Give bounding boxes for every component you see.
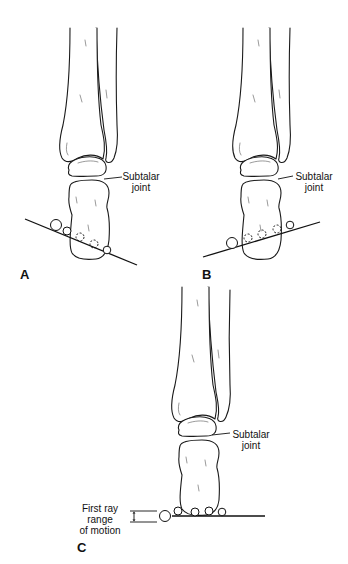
ball-c-4 <box>205 507 213 515</box>
calcaneus-c <box>179 440 220 515</box>
calcaneus-b <box>241 180 282 259</box>
panel-letter-a: A <box>20 267 29 282</box>
ball-b-5 <box>286 221 294 229</box>
ball-b-1 <box>227 238 238 249</box>
first-ray-range-label: First ray range of motion <box>74 503 126 536</box>
ball-a-1 <box>51 220 62 231</box>
ball-c-2 <box>174 507 182 515</box>
range-label-line3: of motion <box>74 525 126 536</box>
panel-letter-b: B <box>202 267 211 282</box>
ball-c-5 <box>218 508 226 516</box>
label-b-line1: Subtalar <box>291 171 337 182</box>
label-a-line2: joint <box>118 182 164 193</box>
talus-b <box>240 157 278 177</box>
panel-letter-c: C <box>77 540 86 555</box>
panel-b-drawing <box>203 28 320 259</box>
talus-a <box>68 157 106 177</box>
calcaneus-a <box>69 180 110 259</box>
label-c-line2: joint <box>228 440 274 451</box>
range-label-line1: First ray <box>74 503 126 514</box>
subtalar-joint-label-a: Subtalar joint <box>118 171 164 193</box>
diagram-canvas <box>0 0 348 564</box>
panel-a-drawing <box>25 28 137 265</box>
range-label-line2: range <box>74 514 126 525</box>
ball-a-2 <box>63 227 71 235</box>
range-of-motion-bracket <box>130 511 157 522</box>
ball-c-1-first-ray <box>160 511 171 522</box>
label-b-line2: joint <box>291 182 337 193</box>
ball-c-3 <box>191 508 199 516</box>
label-c-line1: Subtalar <box>228 429 274 440</box>
panel-c-drawing <box>130 287 265 522</box>
ball-a-5 <box>103 246 111 254</box>
label-a-line1: Subtalar <box>118 171 164 182</box>
talus-c <box>178 417 216 437</box>
subtalar-joint-label-b: Subtalar joint <box>291 171 337 193</box>
subtalar-joint-label-c: Subtalar joint <box>228 429 274 451</box>
